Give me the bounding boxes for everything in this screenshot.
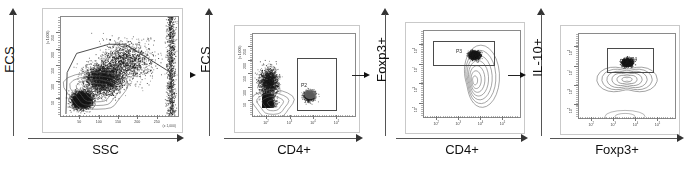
- panel-1-x-label: SSC: [28, 142, 183, 157]
- panel-2: FCS (x 1,000) 50100150200250 10210310410…: [196, 0, 366, 176]
- panel-1-y-unit: (x 1,000): [46, 31, 50, 44]
- panel-1-x-ticks: 50100150200250: [60, 115, 177, 128]
- panel-1-plot: (x 1,000) 50100150200250 50100150200250 …: [42, 8, 183, 133]
- panel-3-plot: 102103104105 102103104105 P3: [405, 22, 525, 134]
- panel-4-gate-label: P4: [631, 56, 637, 62]
- panel-1-y-label: FCS: [2, 25, 17, 95]
- panel-4-plot: 102103104105 102103104105 P4: [560, 25, 680, 135]
- panel-4-y-ticks: 102103104105: [561, 33, 578, 117]
- panel-3-gate-label: P3: [456, 48, 462, 54]
- panel-3-y-label: Foxp3+: [374, 25, 389, 95]
- panel-4-x-axis: Foxp3+: [550, 130, 684, 154]
- panel-2-x-axis: CD4+: [224, 130, 364, 154]
- panel-3-y-ticks: 102103104105: [406, 30, 423, 116]
- x-arrow-head-icon: [356, 134, 363, 142]
- panel-1-x-axis: SSC: [28, 130, 183, 154]
- panel-3: Foxp3+ 102103104105 102103104105 P3 CD4+: [372, 0, 532, 176]
- x-arrow-head-icon: [177, 134, 184, 142]
- panel-1-x-unit: (x 1,000): [163, 124, 176, 128]
- panel-3-y-axis: Foxp3+: [372, 8, 398, 136]
- panel-1-y-ticks: (x 1,000) 50100150200250: [43, 16, 60, 115]
- panel-2-y-unit: (x 1,000): [238, 46, 242, 59]
- panel-3-x-ticks: 102103104105: [423, 116, 519, 129]
- panel-2-gate-label: P2: [301, 82, 307, 88]
- panel-4-y-axis: IL-10+: [528, 8, 554, 136]
- panel-2-y-ticks: (x 1,000) 50100150200250: [235, 33, 252, 115]
- panel-3-x-label: CD4+: [396, 142, 528, 157]
- panel-1: FCS (x 1,000) 50100150200250 50100150200…: [0, 0, 190, 176]
- panel-4-x-ticks: 102103104105: [578, 117, 674, 130]
- panel-4-x-label: Foxp3+: [550, 142, 684, 157]
- panel-2-y-label: FCS: [198, 25, 213, 95]
- panel-3-gate[interactable]: [433, 41, 495, 66]
- x-arrow-head-icon: [677, 134, 684, 142]
- panel-4: IL-10+ 102103104105 102103104105 P4 Foxp…: [528, 0, 689, 176]
- panel-2-plot: (x 1,000) 50100150200250 102103104105 P2: [234, 25, 360, 133]
- panel-2-x-label: CD4+: [224, 142, 364, 157]
- gating-strategy-figure: FCS (x 1,000) 50100150200250 50100150200…: [0, 0, 689, 176]
- panel-2-x-ticks: 102103104105: [252, 115, 354, 128]
- x-arrow-head-icon: [521, 134, 528, 142]
- panel-2-y-axis: FCS: [196, 8, 222, 136]
- panel-4-y-label: IL-10+: [530, 21, 545, 95]
- panel-3-x-axis: CD4+: [396, 130, 528, 154]
- panel-1-y-axis: FCS: [0, 8, 26, 136]
